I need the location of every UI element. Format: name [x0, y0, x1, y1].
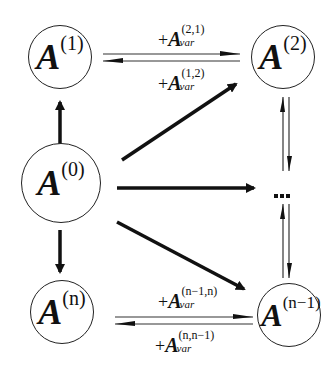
- ellipsis-dot: [280, 194, 284, 198]
- node-an-label: A(n): [31, 291, 93, 333]
- ellipsis-dot: [286, 194, 290, 198]
- node-an: A(n): [30, 280, 94, 344]
- node-a2-label: A(2): [252, 36, 314, 78]
- node-a1: A(1): [28, 25, 92, 89]
- node-a0-label: A(0): [22, 162, 100, 204]
- arrow-a0-to-an1: [117, 222, 244, 289]
- edge-label-a1-a2-forward: +A(2,1)var: [158, 28, 205, 53]
- node-a0: A(0): [21, 143, 101, 223]
- ellipsis-dot: [274, 194, 278, 198]
- node-an1: A(n−1): [257, 283, 321, 347]
- node-a2: A(2): [251, 25, 315, 89]
- edge-label-an1-an-backward: +A(n,n−1)var: [155, 334, 214, 359]
- node-an1-label: A(n−1): [254, 297, 328, 334]
- edge-label-an-an1-forward: +A(n−1,n)var: [158, 290, 217, 315]
- edge-label-a2-a1-backward: +A(1,2)var: [158, 72, 205, 97]
- node-a1-label: A(1): [29, 36, 91, 78]
